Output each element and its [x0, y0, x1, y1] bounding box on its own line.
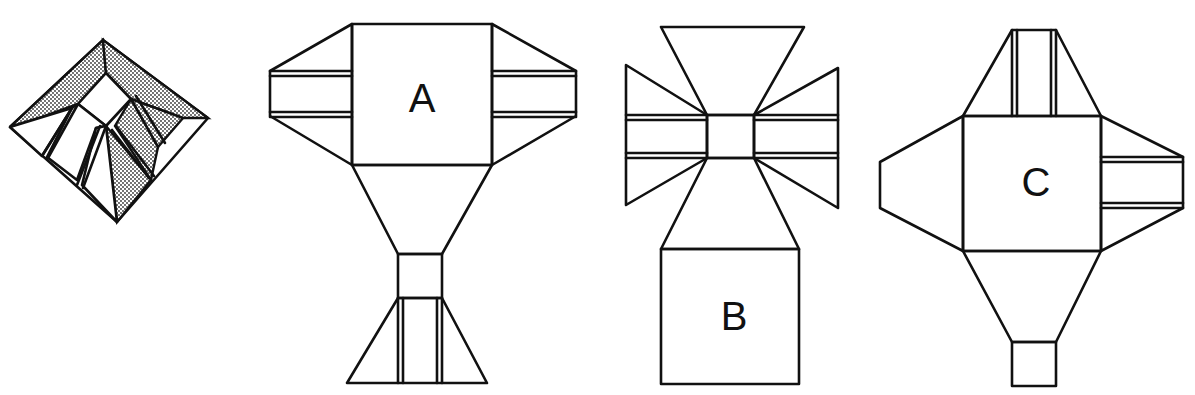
diagram-canvas: A B: [0, 0, 1195, 395]
net-b-label: B: [721, 294, 748, 338]
folded-model: [10, 40, 208, 222]
net-c: C: [880, 30, 1183, 386]
net-a-label: A: [409, 76, 436, 120]
net-b: B: [626, 27, 838, 384]
net-c-label: C: [1022, 160, 1051, 204]
net-a: A: [270, 24, 576, 383]
